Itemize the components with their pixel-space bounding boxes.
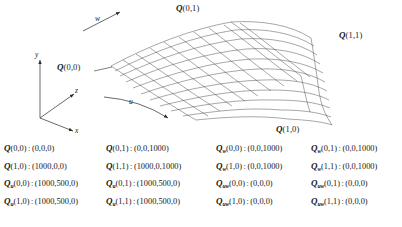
table-row: Qu(1,1):(1000,500,0) <box>106 193 181 211</box>
table-row: Qw(0,1):(0,0,1000) <box>311 140 377 158</box>
row-args: (0,0) <box>13 179 29 188</box>
corner-q11-symbol: Q <box>339 30 346 40</box>
row-args: (0,0) <box>11 144 27 153</box>
corner-q00-symbol: Q <box>57 62 64 72</box>
q00-leader-line <box>94 67 112 71</box>
row-value: (0,0,1000) <box>247 162 282 171</box>
row-args: (1,1) <box>115 197 131 206</box>
table-row: Qw(0,0):(0,0,1000) <box>216 140 282 158</box>
row-value: (1000,500,0) <box>137 197 180 206</box>
row-value: (1000,500,0) <box>137 179 180 188</box>
table-row: Quw(1,0):(0,0,0) <box>216 193 282 211</box>
corner-q10-symbol: Q <box>276 124 283 134</box>
table-row: Qu(0,1):(1000,500,0) <box>106 175 181 193</box>
row-value: (1000,500,0) <box>35 197 78 206</box>
w-direction-label: w <box>95 14 100 23</box>
row-value: (0,0,0) <box>250 197 272 206</box>
row-args: (1,1) <box>321 162 337 171</box>
row-args: (1,0) <box>229 197 245 206</box>
w-arrow-line <box>83 12 120 31</box>
x-axis-line <box>40 118 73 131</box>
table-row: Q(0,0):(0,0,0) <box>4 140 78 158</box>
table-row: Qu(1,0):(1000,500,0) <box>4 193 78 211</box>
row-value: (0,0,1000) <box>134 144 169 153</box>
data-column-3: Qw(0,0):(0,0,1000) Qw(1,0):(0,0,1000) Qu… <box>216 140 282 210</box>
boundary-conditions-table: Q(0,0):(0,0,0) Q(1,0):(1000,0,0) Qu(0,0)… <box>0 140 402 227</box>
row-args: (0,1) <box>321 144 337 153</box>
table-row: Q(1,0):(1000,0,0) <box>4 158 78 176</box>
u-arrow-line <box>104 97 168 118</box>
row-value: (0,0,1000) <box>342 162 377 171</box>
data-column-1: Q(0,0):(0,0,0) Q(1,0):(1000,0,0) Qu(0,0)… <box>4 140 78 210</box>
row-args: (1,1) <box>324 197 340 206</box>
corner-label-q00: Q(0,0) <box>57 62 80 72</box>
figure-page: y z x w u Q(0,0) Q(0,1) Q(1,1) Q(1,0) Q(… <box>0 0 402 227</box>
corner-q10-args: (1,0) <box>283 124 300 134</box>
data-column-4: Qw(0,1):(0,0,1000) Qw(1,1):(0,0,1000) Qu… <box>311 140 377 210</box>
table-row: Qu(0,0):(1000,500,0) <box>4 175 78 193</box>
bicubic-patch-mesh <box>111 22 332 125</box>
corner-label-q11: Q(1,1) <box>339 30 362 40</box>
corner-q01-symbol: Q <box>176 3 183 13</box>
corner-q00-args: (0,0) <box>64 62 81 72</box>
row-args: (1,0) <box>226 162 242 171</box>
table-row: Quw(1,1):(0,0,0) <box>311 193 377 211</box>
table-row: Qw(1,0):(0,0,1000) <box>216 158 282 176</box>
corner-q11-args: (1,1) <box>346 30 363 40</box>
corner-label-q01: Q(0,1) <box>176 3 199 13</box>
y-axis-label: y <box>35 50 38 59</box>
row-value: (0,0,0) <box>250 179 272 188</box>
corner-q01-args: (0,1) <box>183 3 200 13</box>
row-args: (1,1) <box>113 162 129 171</box>
z-axis-line <box>40 94 74 118</box>
row-value: (0,0,0) <box>32 144 54 153</box>
row-value: (0,0,1000) <box>342 144 377 153</box>
row-value: (1000,500,0) <box>35 179 78 188</box>
x-axis-label: x <box>75 126 78 135</box>
bicubic-patch-figure: y z x w u Q(0,0) Q(0,1) Q(1,1) Q(1,0) <box>0 0 402 140</box>
parameter-arrows <box>83 12 168 118</box>
data-column-2: Q(0,1):(0,0,1000) Q(1,1):(1000,0,1000) Q… <box>106 140 181 210</box>
table-row: Qw(1,1):(0,0,1000) <box>311 158 377 176</box>
row-value: (0,0,1000) <box>247 144 282 153</box>
z-axis-label: z <box>75 86 78 95</box>
corner-label-q10: Q(1,0) <box>276 124 299 134</box>
row-args: (0,1) <box>115 179 131 188</box>
row-args: (0,1) <box>324 179 340 188</box>
row-value: (0,0,0) <box>345 197 367 206</box>
row-args: (0,0) <box>226 144 242 153</box>
row-args: (1,0) <box>13 197 29 206</box>
table-row: Quw(0,1):(0,0,0) <box>311 175 377 193</box>
row-args: (0,0) <box>229 179 245 188</box>
row-args: (0,1) <box>113 144 129 153</box>
row-value: (1000,0,1000) <box>134 162 181 171</box>
u-direction-label: u <box>129 97 133 106</box>
table-row: Q(1,1):(1000,0,1000) <box>106 158 181 176</box>
table-row: Q(0,1):(0,0,1000) <box>106 140 181 158</box>
row-value: (0,0,0) <box>345 179 367 188</box>
row-value: (1000,0,0) <box>32 162 67 171</box>
table-row: Quw(0,0):(0,0,0) <box>216 175 282 193</box>
row-args: (1,0) <box>11 162 27 171</box>
